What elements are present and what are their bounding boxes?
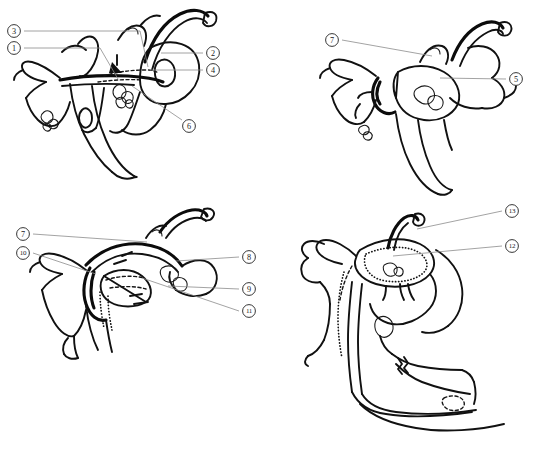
callout-label-5[interactable]: 5 [510,73,523,86]
callout-label-6-text: 6 [187,122,191,131]
figure-plate: 3 1 2 4 6 [0,0,536,459]
callout-label-1-text: 1 [12,44,16,53]
callout-label-1[interactable]: 1 [8,42,21,55]
panel-I-callouts: 3 1 2 4 6 [8,25,220,133]
panel-IV-callouts: 13 12 [393,205,518,256]
callout-label-11-text: 11 [246,307,253,315]
callout-label-4-text: 4 [211,66,215,75]
leader-line-9 [168,286,239,289]
callout-label-7-panel-II-text: 7 [330,36,334,45]
figure-artwork: 3 1 2 4 6 [0,0,536,459]
callout-label-7-panel-III[interactable]: 7 [17,228,30,241]
callout-label-7-panel-III-text: 7 [21,230,25,239]
leader-line-12 [393,246,502,256]
callout-label-10[interactable]: 10 [17,247,30,260]
callout-label-9[interactable]: 9 [243,283,256,296]
callout-label-3[interactable]: 3 [8,25,21,38]
callout-label-2-text: 2 [211,49,215,58]
callout-label-8-text: 8 [247,253,251,262]
callout-label-6[interactable]: 6 [183,120,196,133]
callout-label-8[interactable]: 8 [243,251,256,264]
callout-label-9-text: 9 [247,285,251,294]
panel-III-artwork [30,209,217,359]
panel-I-artwork [14,10,216,178]
leader-line-11 [142,278,239,311]
callout-label-4[interactable]: 4 [207,64,220,77]
callout-label-5-text: 5 [514,75,518,84]
leader-line-5 [440,78,506,79]
callout-label-13[interactable]: 13 [506,205,519,218]
callout-label-12-text: 12 [509,242,516,250]
callout-label-7-panel-II[interactable]: 7 [326,34,339,47]
callout-label-3-text: 3 [12,27,16,36]
callout-label-13-text: 13 [509,207,516,215]
leader-line-7-panel-II [342,40,432,56]
callout-label-11[interactable]: 11 [243,305,256,318]
leader-line-8 [176,257,239,261]
leader-line-7-panel-III [33,234,147,242]
callout-label-10-text: 10 [20,249,27,257]
leader-line-13 [417,211,502,229]
callout-label-2[interactable]: 2 [207,47,220,60]
callout-label-12[interactable]: 12 [506,240,519,253]
panel-II-artwork [320,22,516,195]
panel-IV-artwork [301,214,504,431]
